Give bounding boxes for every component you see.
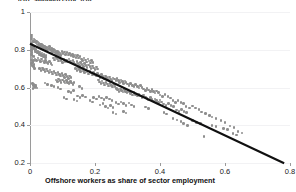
x-tick-label: 0.8 — [278, 168, 296, 176]
x-tick-mark — [225, 163, 226, 166]
y-tick-label: 0.6 — [3, 84, 25, 92]
x-tick-label: 0 — [18, 168, 42, 176]
y-tick-label: 0.4 — [3, 121, 25, 129]
x-tick-mark — [160, 163, 161, 166]
chart-title-clipped: 0.81, standard error: 0.02 — [18, 0, 93, 1]
scatter-plot-figure: 0.81, standard error: 0.02 Native worker… — [0, 0, 296, 192]
x-tick-label: 0.4 — [148, 168, 172, 176]
x-tick-mark — [30, 163, 31, 166]
x-tick-label: 0.6 — [213, 168, 237, 176]
y-tick-label: 1 — [3, 8, 25, 16]
y-tick-label: 0.8 — [3, 46, 25, 54]
fitted-regression-line — [30, 12, 290, 163]
x-tick-mark — [95, 163, 96, 166]
y-tick-label: 0.2 — [3, 159, 25, 167]
x-tick-mark — [290, 163, 291, 166]
x-tick-label: 0.2 — [83, 168, 107, 176]
x-axis-label: Offshore workers as share of sector empl… — [45, 176, 215, 185]
plot-area: 0.20.40.60.81 00.20.40.60.8 — [30, 12, 290, 163]
